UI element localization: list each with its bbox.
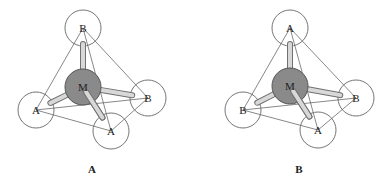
tetrahedron-edge: [111, 98, 148, 131]
isomer-panel-a: MBABAA: [18, 10, 166, 175]
ligand-symbol-left: A: [32, 104, 40, 116]
tetrahedron-edge: [318, 98, 356, 130]
panel-caption: B: [295, 163, 303, 175]
ligand-symbol-bottom: A: [107, 125, 115, 137]
ligand-symbol-top: B: [79, 22, 86, 34]
ligand-symbol-bottom: A: [314, 124, 322, 136]
metal-symbol: M: [78, 81, 88, 93]
ligand-symbol-right: B: [352, 92, 359, 104]
metal-symbol: M: [285, 80, 295, 92]
panel-caption: A: [88, 163, 96, 175]
ligand-symbol-right: B: [144, 92, 151, 104]
ligand-symbol-top: A: [286, 22, 294, 34]
isomer-panel-b: MABBAB: [225, 10, 374, 175]
tetrahedral-isomers-diagram: MBABAA MABBAB: [0, 0, 389, 186]
ligand-symbol-left: B: [239, 104, 246, 116]
